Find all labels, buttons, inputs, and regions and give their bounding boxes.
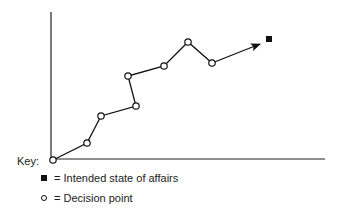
decision-point: [133, 103, 139, 109]
filled-square-icon: [38, 175, 50, 181]
decision-point: [125, 73, 131, 79]
decision-point: [98, 113, 104, 119]
goal-square-icon: [266, 36, 272, 42]
key-item-intended-state: = Intended state of affairs: [38, 172, 178, 184]
decision-path: [53, 42, 212, 160]
key-item-decision-point: = Decision point: [38, 192, 133, 204]
key-label: = Decision point: [54, 192, 133, 204]
key-title: Key:: [17, 155, 39, 167]
decision-point: [161, 63, 167, 69]
open-circle-icon: [38, 195, 50, 201]
decision-point: [50, 157, 56, 163]
decision-points: [50, 39, 215, 163]
diagram-canvas: [0, 0, 343, 218]
arrow-to-goal: [212, 44, 260, 63]
decision-point: [185, 39, 191, 45]
key-label: = Intended state of affairs: [54, 172, 178, 184]
decision-point: [84, 140, 90, 146]
decision-point: [209, 60, 215, 66]
